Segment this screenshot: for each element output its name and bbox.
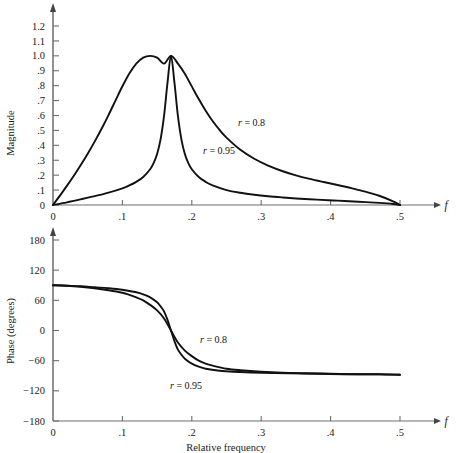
magnitude-plot: 0.1.2.3.4.5.6.7.8.91.01.11.20.1.2.3.4.5M… [0,0,458,226]
magnitude-annotation-r08: r = 0.8 [238,117,265,128]
phase-annotation-r08: r = 0.8 [200,334,227,345]
magnitude-y-axis-title: Magnitude [5,110,16,156]
magnitude-x-axis-symbol: f [444,199,449,212]
magnitude-y-tick-label: .3 [37,155,45,166]
x-axis-arrow-icon [434,202,441,208]
magnitude-x-tick-label: .1 [118,211,126,222]
phase-x-tick-label: .4 [327,427,336,438]
magnitude-y-tick-label: .4 [37,140,46,151]
magnitude-y-tick-label: .9 [37,65,45,76]
phase-y-tick-label: 60 [35,295,46,306]
magnitude-y-tick-label: .7 [37,95,45,106]
magnitude-x-tick-label: .4 [327,211,336,222]
magnitude-annotation-r095: r = 0.95 [203,145,235,156]
magnitude-x-tick-label: .5 [396,211,404,222]
magnitude-curve-r-0-8 [53,56,400,205]
phase-y-tick-label: 120 [29,265,45,276]
phase-plot: 180120600−60−120−1800.1.2.3.4.5Phase (de… [0,226,458,453]
phase-x-axis-title: Relative frequency [186,442,266,453]
phase-x-tick-label: .3 [257,427,265,438]
phase-y-axis-arrow-icon [50,227,56,236]
magnitude-y-tick-label: 1.1 [32,36,45,47]
phase-x-tick-label: 0 [50,427,55,438]
y-axis-arrow-icon [50,3,56,12]
magnitude-x-tick-label: .3 [257,211,265,222]
phase-y-tick-label: 180 [29,235,45,246]
magnitude-y-tick-label: .5 [37,125,45,136]
magnitude-x-tick-label: 0 [50,211,55,222]
phase-x-axis-symbol: f [444,415,449,428]
magnitude-y-tick-label: .1 [37,185,45,196]
phase-x-tick-label: .1 [118,427,126,438]
magnitude-y-tick-label: .2 [37,170,45,181]
magnitude-y-tick-label: .8 [37,80,45,91]
phase-y-tick-label: −120 [23,385,45,396]
phase-y-axis-title: Phase (degrees) [5,297,17,364]
phase-curve-r-0-8 [53,285,400,374]
phase-y-tick-label: −180 [23,416,45,427]
magnitude-y-tick-label: 1.2 [32,21,45,32]
phase-y-tick-label: 0 [40,325,45,336]
phase-x-tick-label: .5 [396,427,404,438]
phase-y-tick-label: −60 [29,355,45,366]
magnitude-curve-r-0-95 [53,56,400,205]
phase-curve-r-0-95 [53,285,400,374]
magnitude-y-tick-label: 1.0 [32,50,45,61]
magnitude-y-tick-label: .6 [37,110,45,121]
phase-x-tick-label: .2 [188,427,196,438]
magnitude-x-tick-label: .2 [188,211,196,222]
magnitude-y-tick-label: 0 [40,200,45,211]
phase-x-axis-arrow-icon [434,418,441,424]
frequency-response-figure: 0.1.2.3.4.5.6.7.8.91.01.11.20.1.2.3.4.5M… [0,0,458,453]
phase-annotation-r095: r = 0.95 [170,380,202,391]
